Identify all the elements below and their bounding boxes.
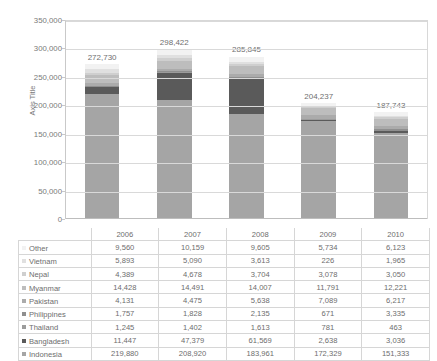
stacked-column-chart-with-data-table: Axis Title 350,000300,000250,000200,0001… — [0, 0, 437, 361]
bar-slot: 272,730 — [66, 21, 138, 219]
legend-swatch-icon — [22, 325, 26, 329]
y-axis-tick-label: 0 — [10, 215, 62, 224]
y-axis-tick-label: 100,000 — [10, 158, 62, 167]
bar-segment-myanmar[interactable] — [157, 61, 192, 69]
y-axis-tick-mark — [62, 105, 65, 106]
table-cell-value: 3,704 — [226, 267, 294, 280]
gridline — [66, 49, 427, 50]
table-row: Bangladesh11,44747,37961,5692,6383,036 — [19, 334, 430, 347]
bar-total-label: 298,422 — [138, 38, 210, 47]
legend-entry-pakistan: Pakistan — [19, 294, 92, 307]
legend-entry-bangladesh: Bangladesh — [19, 334, 92, 347]
legend-label: Philippines — [29, 310, 66, 319]
bar-segment-indonesia[interactable] — [157, 100, 192, 219]
plot-area: 272,730298,422285,845204,237187,743 — [65, 20, 428, 219]
bar-segment-myanmar[interactable] — [301, 108, 336, 115]
stacked-bar[interactable] — [374, 112, 409, 219]
table-cell-value: 11,791 — [294, 281, 362, 294]
table-cell-value: 9,560 — [91, 241, 159, 254]
table-cell-value: 1,757 — [91, 307, 159, 320]
x-axis-line — [66, 218, 427, 219]
bar-segment-indonesia[interactable] — [229, 114, 264, 219]
y-axis-tick-labels: 350,000300,000250,000200,000150,000100,0… — [0, 0, 62, 232]
y-axis-tick-label: 350,000 — [10, 16, 62, 25]
table-header-row: 20062007200820092010 — [19, 228, 430, 241]
data-table-wrapper: 20062007200820092010Other9,56010,1599,60… — [18, 228, 430, 361]
legend-entry-nepal: Nepal — [19, 267, 92, 280]
table-cell-value: 7,089 — [294, 294, 362, 307]
table-row: Nepal4,3894,6783,7043,0783,050 — [19, 267, 430, 280]
table-cell-value: 5,638 — [226, 294, 294, 307]
table-column-header: 2009 — [294, 228, 362, 241]
table-cell-value: 61,569 — [226, 334, 294, 347]
table-cell-value: 12,221 — [362, 281, 430, 294]
legend-swatch-icon — [22, 286, 26, 290]
table-cell-value: 151,333 — [362, 347, 430, 360]
legend-label: Indonesia — [29, 350, 62, 359]
table-cell-value: 781 — [294, 321, 362, 334]
table-cell-value: 208,920 — [159, 347, 227, 360]
y-axis-tick-mark — [62, 162, 65, 163]
table-cell-value: 4,131 — [91, 294, 159, 307]
table-cell-value: 14,428 — [91, 281, 159, 294]
gridline — [66, 106, 427, 107]
stacked-bar[interactable] — [229, 57, 264, 219]
table-cell-value: 5,090 — [159, 254, 227, 267]
y-axis-tick-label: 250,000 — [10, 72, 62, 81]
table-cell-value: 1,402 — [159, 321, 227, 334]
y-axis-tick-mark — [62, 191, 65, 192]
table-cell-value: 47,379 — [159, 334, 227, 347]
legend-label: Thailand — [29, 323, 58, 332]
gridline — [66, 21, 427, 22]
bar-slot: 285,845 — [210, 21, 282, 219]
legend-label: Bangladesh — [29, 336, 69, 345]
table-cell-value: 3,050 — [362, 267, 430, 280]
legend-swatch-icon — [22, 352, 26, 356]
table-column-header: 2007 — [159, 228, 227, 241]
y-axis-tick-mark — [62, 77, 65, 78]
bar-segment-myanmar[interactable] — [85, 75, 120, 83]
bar-segment-myanmar[interactable] — [229, 66, 264, 74]
table-row: Indonesia219,880208,920183,961172,329151… — [19, 347, 430, 360]
table-cell-value: 11,447 — [91, 334, 159, 347]
legend-entry-indonesia: Indonesia — [19, 347, 92, 360]
table-row: Vietnam5,8935,0903,6132261,965 — [19, 254, 430, 267]
y-axis-tick-mark — [62, 219, 65, 220]
table-cell-value: 3,036 — [362, 334, 430, 347]
bar-segment-indonesia[interactable] — [85, 94, 120, 219]
table-cell-value: 14,491 — [159, 281, 227, 294]
legend-label: Pakistan — [29, 296, 58, 305]
table-cell-value: 172,329 — [294, 347, 362, 360]
bar-segment-indonesia[interactable] — [374, 133, 409, 219]
legend-swatch-icon — [22, 246, 26, 250]
stacked-bar[interactable] — [301, 103, 336, 219]
legend-label: Vietnam — [29, 256, 57, 265]
bar-segment-indonesia[interactable] — [301, 121, 336, 219]
table-cell-value: 3,613 — [226, 254, 294, 267]
y-axis-tick-mark — [62, 48, 65, 49]
gridline — [66, 78, 427, 79]
y-axis-tick-label: 50,000 — [10, 186, 62, 195]
bar-segment-myanmar[interactable] — [374, 119, 409, 126]
table-cell-value: 183,961 — [226, 347, 294, 360]
table-cell-value: 671 — [294, 307, 362, 320]
table-row: Thailand1,2451,4021,613781463 — [19, 321, 430, 334]
legend-swatch-icon — [22, 312, 26, 316]
legend-entry-vietnam: Vietnam — [19, 254, 92, 267]
table-cell-value: 2,135 — [226, 307, 294, 320]
table-cell-value: 14,007 — [226, 281, 294, 294]
bar-total-label: 204,237 — [283, 92, 355, 101]
legend-swatch-icon — [22, 272, 26, 276]
stacked-bar[interactable] — [85, 64, 120, 219]
table-row: Other9,56010,1599,6055,7346,123 — [19, 241, 430, 254]
data-table: 20062007200820092010Other9,56010,1599,60… — [18, 228, 430, 361]
bar-total-label: 272,730 — [66, 53, 138, 62]
legend-entry-other: Other — [19, 241, 92, 254]
table-cell-value: 2,638 — [294, 334, 362, 347]
bar-segment-bangladesh[interactable] — [229, 79, 264, 114]
table-column-header: 2008 — [226, 228, 294, 241]
table-cell-value: 463 — [362, 321, 430, 334]
bar-slot: 204,237 — [283, 21, 355, 219]
table-cell-value: 6,123 — [362, 241, 430, 254]
table-cell-value: 3,335 — [362, 307, 430, 320]
